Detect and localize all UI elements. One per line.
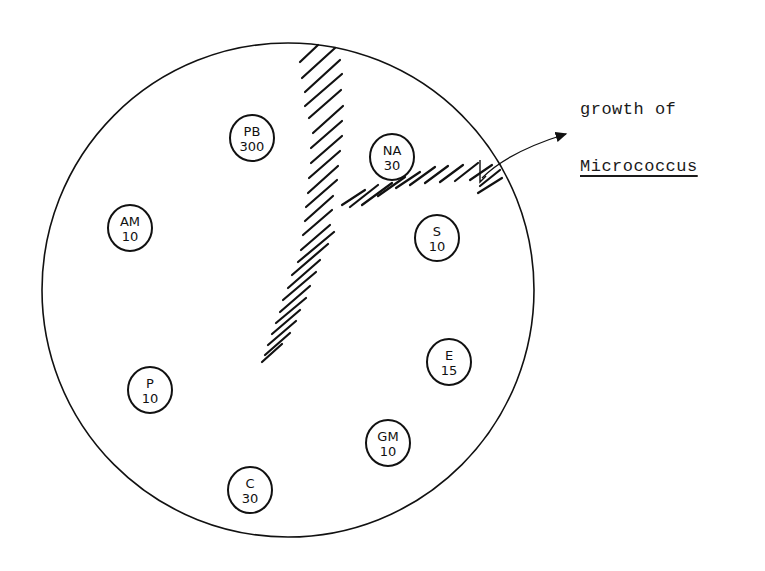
disk-dose: 10 xyxy=(380,444,397,459)
disk-code: S xyxy=(433,224,441,239)
disk-code: AM xyxy=(120,214,140,229)
disk-code: NA xyxy=(383,143,402,158)
disk-code: PB xyxy=(244,124,261,139)
micrococcus-growth-hatching xyxy=(262,45,502,362)
disk-code: P xyxy=(146,376,154,391)
annotation-line-1: growth of xyxy=(580,100,676,119)
disk-dose: 30 xyxy=(384,158,401,173)
disk-dose: 10 xyxy=(142,391,159,406)
disk-dose: 15 xyxy=(441,363,458,378)
petri-plate-diagram: PB300NA30AM10S10E15P10GM10C30 xyxy=(0,0,765,571)
antibiotic-disk-am: AM10 xyxy=(108,205,152,251)
disk-code: C xyxy=(245,476,254,491)
disk-dose: 10 xyxy=(122,229,139,244)
antibiotic-disk-s: S10 xyxy=(415,215,459,261)
petri-dish-outline xyxy=(42,43,534,537)
disk-code: E xyxy=(445,348,453,363)
antibiotic-disk-gm: GM10 xyxy=(366,420,410,466)
disk-dose: 300 xyxy=(240,139,265,154)
antibiotic-disk-pb: PB300 xyxy=(230,115,274,161)
antibiotic-disk-e: E15 xyxy=(427,339,471,385)
antibiotic-disk-na: NA30 xyxy=(370,134,414,180)
annotation-line-2-organism: Micrococcus xyxy=(580,157,698,176)
antibiotic-disk-p: P10 xyxy=(128,367,172,413)
disk-dose: 30 xyxy=(242,491,259,506)
antibiotic-disk-c: C30 xyxy=(228,467,272,513)
disk-code: GM xyxy=(377,429,398,444)
disk-dose: 10 xyxy=(429,239,446,254)
